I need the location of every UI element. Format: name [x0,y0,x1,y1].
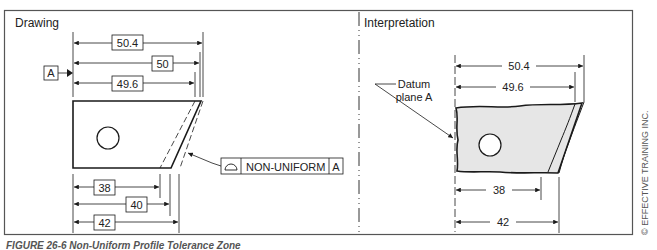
dimension-50: 50 [74,56,199,71]
svg-text:49.6: 49.6 [117,78,138,90]
dimension-50-4: 50.4 [74,35,202,50]
datum-callout-line2: plane A [396,91,433,103]
feature-control-frame: NON-UNIFORM A [221,158,343,174]
interp-dimension-38: 38 [456,183,540,197]
dimension-40: 40 [74,197,169,212]
figure-caption: FIGURE 26-6 Non-Uniform Profile Toleranc… [6,240,241,250]
dimension-49-6: 49.6 [74,76,194,91]
interpretation-title: Interpretation [364,16,435,30]
interp-dimension-42: 42 [456,215,558,229]
fcf-datum: A [332,161,340,173]
drawing-title: Drawing [15,16,59,30]
fcf-modifier: NON-UNIFORM [246,161,325,173]
svg-text:A: A [47,67,55,79]
figure-canvas: Drawing 50.4 50 49.6 A [0,0,657,250]
copyright-notice: © EFFECTIVE TRAINING INC. [640,111,650,235]
svg-text:50.4: 50.4 [508,60,529,72]
interpretation-part [456,102,584,173]
svg-text:40: 40 [130,199,142,211]
dimension-42: 42 [74,215,178,230]
svg-text:49.6: 49.6 [502,81,523,93]
drawing-part [73,101,203,168]
svg-text:50: 50 [156,58,168,70]
svg-text:38: 38 [98,182,110,194]
interp-dimension-49-6: 49.6 [456,80,574,94]
interp-dimension-50-4: 50.4 [456,59,583,73]
svg-text:38: 38 [493,184,505,196]
datum-feature-symbol: A [44,66,73,80]
svg-text:42: 42 [497,216,509,228]
dimension-38: 38 [74,180,159,195]
svg-text:50.4: 50.4 [117,37,138,49]
datum-callout-line1: Datum [398,78,430,90]
svg-text:42: 42 [98,217,110,229]
